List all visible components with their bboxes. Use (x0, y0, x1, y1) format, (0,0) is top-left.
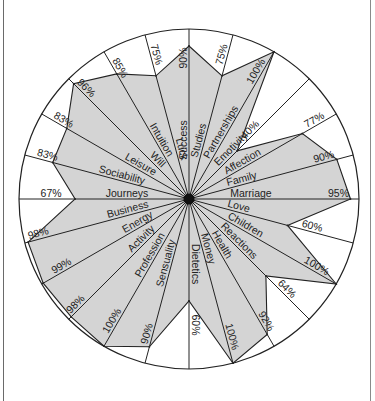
category-label-journeys: Journeys (106, 187, 149, 199)
value-label-marriage: 95% (328, 187, 349, 199)
category-label-marriage: Marriage (230, 187, 272, 199)
center-hub (184, 194, 195, 205)
value-label-reactions: 64% (276, 277, 299, 300)
value-label-studies: 75% (213, 43, 230, 66)
value-label-journeys: 67% (41, 187, 62, 199)
radar-chart: SuccessStudiesPartnershipsEmotivityAffec… (0, 0, 375, 401)
value-label-luck: 75% (148, 43, 165, 66)
value-label-dietetics: 60% (190, 314, 202, 335)
value-label-sociability: 83% (36, 146, 59, 163)
value-label-success: 90% (177, 47, 189, 68)
value-label-love: 60% (301, 217, 324, 234)
category-label-dietetics: Dietetics (190, 244, 202, 284)
